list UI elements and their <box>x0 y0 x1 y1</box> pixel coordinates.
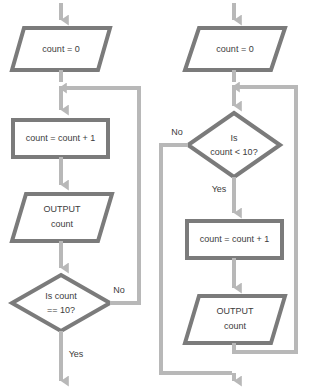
node-decision-count-less-than-ten: Is count < 10? <box>188 113 280 177</box>
parallelogram-shape <box>12 194 112 241</box>
node-label: count = count + 1 <box>26 133 96 143</box>
left-flowchart: count = 0 count = count + 1 OUTPUT count… <box>12 3 141 381</box>
node-init-count-zero: count = 0 <box>12 28 110 70</box>
node-label-line1: Is count <box>45 291 77 301</box>
node-output: OUTPUT count <box>12 194 112 241</box>
node-decision-count-equals-ten: Is count == 10? <box>12 275 110 331</box>
node-increment: count = count + 1 <box>13 120 108 157</box>
flowchart-diagram: count = 0 count = count + 1 OUTPUT count… <box>0 0 310 390</box>
node-label-line2: count <box>224 321 247 331</box>
diamond-shape <box>188 113 280 177</box>
node-label-line1: Is <box>230 133 238 143</box>
node-init-count-zero: count = 0 <box>185 28 285 70</box>
node-output: OUTPUT count <box>185 296 285 343</box>
node-label-line1: OUTPUT <box>217 306 255 316</box>
node-label-line2: count < 10? <box>210 147 257 157</box>
diamond-shape <box>12 275 110 331</box>
branch-label-no: No <box>113 285 125 295</box>
node-label-line2: == 10? <box>47 305 75 315</box>
node-increment: count = count + 1 <box>187 221 282 258</box>
branch-label-yes: Yes <box>69 349 84 359</box>
right-flowchart: count = 0 Is count < 10? No Yes count = … <box>161 3 298 381</box>
node-label: count = count + 1 <box>200 234 270 244</box>
node-label: count = 0 <box>42 44 79 54</box>
node-label-line2: count <box>51 219 74 229</box>
parallelogram-shape <box>185 296 285 343</box>
branch-label-no: No <box>171 127 183 137</box>
branch-label-yes: Yes <box>212 184 227 194</box>
node-label: count = 0 <box>216 44 253 54</box>
node-label-line1: OUTPUT <box>44 204 82 214</box>
